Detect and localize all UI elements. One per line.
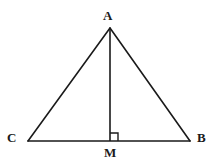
segment-side-AB [110,28,190,141]
geometry-canvas [0,0,216,167]
vertex-label-m: M [104,146,116,159]
segment-side-CA [28,28,110,141]
right-angle-marker-icon [110,133,118,141]
vertex-label-c: C [7,131,16,144]
vertex-label-a: A [103,9,112,22]
vertex-label-b: B [197,131,206,144]
geometry-figure: A C B M [0,0,216,167]
